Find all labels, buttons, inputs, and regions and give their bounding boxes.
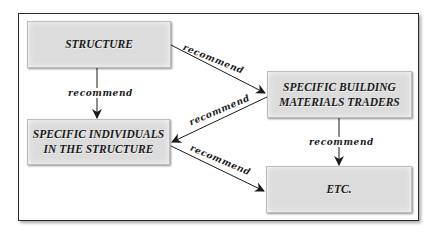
node-structure: STRUCTURE [27, 21, 171, 68]
edge-label-structure-individuals: recommend [67, 88, 134, 98]
node-etc-label: ETC. [326, 182, 351, 197]
edge-label-traders-etc: recommend [308, 137, 375, 147]
node-individuals-label: SPECIFIC INDIVIDUALS IN THE STRUCTURE [33, 127, 164, 157]
node-traders-label: SPECIFIC BUILDING MATERIALS TRADERS [279, 80, 399, 110]
node-etc: ETC. [266, 166, 412, 213]
node-structure-label: STRUCTURE [65, 37, 133, 52]
node-individuals: SPECIFIC INDIVIDUALS IN THE STRUCTURE [27, 119, 170, 165]
node-traders: SPECIFIC BUILDING MATERIALS TRADERS [267, 71, 412, 118]
